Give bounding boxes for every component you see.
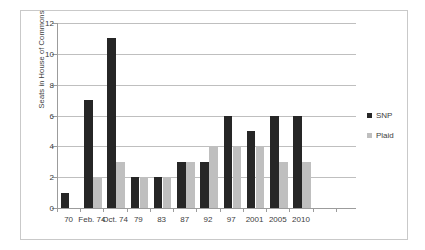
x-axis-label-2001: 2001 — [246, 215, 264, 224]
bar-snp-83 — [154, 177, 163, 208]
bar-snp-Feb74 — [84, 100, 93, 208]
x-tick — [57, 208, 58, 212]
y-axis-label: 6 — [30, 111, 54, 120]
x-tick — [289, 208, 290, 212]
x-tick — [336, 208, 337, 212]
bar-snp-87 — [177, 162, 186, 208]
legend-label: SNP — [376, 111, 392, 120]
legend-item-plaid[interactable]: Plaid — [367, 131, 409, 140]
x-tick — [103, 208, 104, 212]
bar-snp-97 — [224, 116, 233, 209]
bar-plaid-87 — [186, 162, 195, 208]
bar-plaid-83 — [163, 177, 172, 208]
legend-swatch-icon — [367, 133, 372, 138]
y-axis-label: 4 — [30, 142, 54, 151]
gridline-0 — [57, 208, 356, 209]
x-tick — [150, 208, 151, 212]
bar-plaid-Feb74 — [93, 177, 102, 208]
x-axis-label-87: 87 — [180, 215, 189, 224]
bar-plaid-97 — [233, 146, 242, 208]
y-axis-label: 12 — [30, 19, 54, 28]
x-axis-label-2010: 2010 — [292, 215, 310, 224]
bars-layer — [58, 23, 356, 208]
legend-item-snp[interactable]: SNP — [367, 111, 409, 120]
y-axis-label: 0 — [30, 204, 54, 213]
y-axis-label: 8 — [30, 80, 54, 89]
x-axis-label-2005: 2005 — [269, 215, 287, 224]
bar-plaid-79 — [140, 177, 149, 208]
bar-plaid-92 — [209, 146, 218, 208]
plot-area: 024681012 70Feb. 74Oct. 7479838792972001… — [57, 23, 356, 208]
bar-plaid-2001 — [256, 146, 265, 208]
y-axis-label: 10 — [30, 49, 54, 58]
x-tick — [196, 208, 197, 212]
x-axis-label-97: 97 — [227, 215, 236, 224]
x-tick — [80, 208, 81, 212]
bar-snp-2010 — [293, 116, 302, 209]
x-tick — [313, 208, 314, 212]
x-axis-label-92: 92 — [204, 215, 213, 224]
chart-legend: SNPPlaid — [367, 111, 409, 151]
x-tick — [173, 208, 174, 212]
chart-frame: Seats in House of Commons 024681012 70Fe… — [20, 10, 408, 240]
x-tick — [127, 208, 128, 212]
x-axis-label-79: 79 — [134, 215, 143, 224]
bar-plaid-2010 — [302, 162, 311, 208]
bar-plaid-Oct74 — [116, 162, 125, 208]
bar-snp-Oct74 — [107, 38, 116, 208]
bar-snp-92 — [200, 162, 209, 208]
legend-swatch-icon — [367, 113, 372, 118]
x-axis-label-83: 83 — [157, 215, 166, 224]
x-axis-label-Oct74: Oct. 74 — [102, 215, 128, 224]
x-tick — [266, 208, 267, 212]
bar-snp-79 — [131, 177, 140, 208]
x-tick — [220, 208, 221, 212]
y-axis-label: 2 — [30, 173, 54, 182]
x-axis-label-70: 70 — [64, 215, 73, 224]
legend-label: Plaid — [376, 131, 394, 140]
x-tick — [243, 208, 244, 212]
bar-plaid-2005 — [279, 162, 288, 208]
bar-snp-70 — [61, 193, 70, 208]
bar-snp-2001 — [247, 131, 256, 208]
bar-snp-2005 — [270, 116, 279, 209]
